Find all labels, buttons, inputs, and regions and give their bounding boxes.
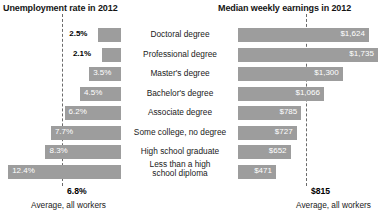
average-earnings-value: $815 [311,186,330,196]
unemployment-bar [102,48,121,62]
earnings-value-label: $652 [257,146,287,155]
category-label: Less than a high school diploma [128,160,232,179]
earnings-value-label: $727 [263,127,293,136]
unemployment-value-label: 4.5% [84,88,102,97]
education-pays-chart: Unemployment rate in 2012 Median weekly … [0,0,387,219]
earnings-value-label: $1,624 [335,29,365,38]
chart-row: 12.4%Less than a high school diploma$471 [0,164,387,181]
chart-row: 4.5%Bachelor's degree$1,066 [0,86,387,103]
average-earnings-caption: Average, all workers [296,200,371,210]
unemployment-value-label: 2.5% [69,29,87,38]
unemployment-bar [98,28,121,42]
chart-row: 2.5%Doctoral degree$1,624 [0,27,387,44]
chart-row: 3.5%Master's degree$1,300 [0,66,387,83]
category-label: Doctoral degree [128,30,232,39]
unemployment-value-label: 3.5% [93,68,111,77]
unemployment-value-label: 7.7% [55,127,73,136]
unemployment-value-label: 12.4% [12,166,35,175]
average-unemployment-caption: Average, all workers [31,200,106,210]
unemployment-value-label: 6.2% [69,107,87,116]
chart-row: 7.7%Some college, no degree$727 [0,125,387,142]
category-label: Professional degree [128,50,232,59]
average-unemployment-value: 6.8% [67,186,87,196]
chart-row: 2.1%Professional degree$1,735 [0,47,387,64]
earnings-value-label: $1,066 [290,88,320,97]
left-panel-title: Unemployment rate in 2012 [3,3,118,13]
category-label: Some college, no degree [128,128,232,137]
earnings-value-label: $471 [242,166,272,175]
category-label: High school graduate [128,147,232,156]
unemployment-value-label: 2.1% [73,49,91,58]
category-label: Master's degree [128,69,232,78]
earnings-value-label: $785 [267,107,297,116]
earnings-value-label: $1,300 [309,68,339,77]
category-label: Bachelor's degree [128,89,232,98]
right-panel-title: Median weekly earnings in 2012 [218,3,351,13]
category-label: Associate degree [128,108,232,117]
chart-row: 6.2%Associate degree$785 [0,105,387,122]
unemployment-value-label: 8.3% [49,146,67,155]
earnings-value-label: $1,735 [344,49,374,58]
